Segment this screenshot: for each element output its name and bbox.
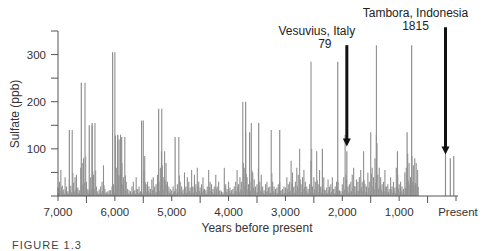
- x-tick-label: 2,000: [328, 206, 357, 218]
- x-ticks: 7,0006,0005,0004,0003,0002,0001,000Prese…: [44, 196, 479, 218]
- y-ticks: 100200300: [27, 31, 58, 196]
- annotation-label: Vesuvius, Italy: [278, 24, 355, 38]
- annotation-year: 79: [318, 37, 332, 51]
- x-tick-label: 7,000: [44, 206, 73, 218]
- x-tick-label: 1,000: [385, 206, 414, 218]
- annotation-year: 1815: [402, 19, 429, 33]
- annotation-label: Tambora, Indonesia: [363, 6, 469, 20]
- arrow-head-icon: [441, 147, 449, 155]
- figure-caption: FIGURE 1.3: [12, 239, 82, 251]
- y-tick-label: 300: [27, 49, 46, 61]
- annotations: Vesuvius, Italy79Tambora, Indonesia1815: [278, 6, 468, 154]
- x-tick-label: 4,000: [214, 206, 243, 218]
- y-axis-title: Sulfate (ppb): [8, 80, 22, 149]
- x-tick-label: 3,000: [271, 206, 300, 218]
- y-tick-label: 200: [27, 96, 46, 108]
- y-tick-label: 100: [27, 143, 46, 155]
- x-tick-label: 6,000: [100, 206, 129, 218]
- x-tick-label: Present: [438, 206, 478, 218]
- arrow-head-icon: [343, 139, 351, 147]
- sulfate-bars: [58, 45, 454, 196]
- x-tick-label: 5,000: [157, 206, 186, 218]
- x-axis-title: Years before present: [202, 221, 314, 235]
